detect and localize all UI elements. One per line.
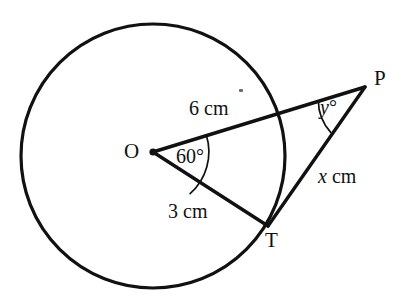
measure-label-3cm: 3 cm <box>168 201 207 221</box>
point-label-O: O <box>124 141 139 162</box>
unit-cm: cm <box>332 165 356 187</box>
angle-label-60-degrees: 60° <box>176 146 204 166</box>
measure-label-6cm: 6 cm <box>189 98 228 118</box>
vertex-dot-O <box>149 148 156 155</box>
geometry-figure-svg <box>0 0 410 302</box>
point-label-T: T <box>265 230 278 251</box>
angle-label-y-degrees: y° <box>320 97 337 117</box>
scan-artifact-speck <box>239 89 243 92</box>
variable-x: x <box>318 165 327 187</box>
segment-T-to-P <box>268 87 365 226</box>
geometry-diagram-canvas: O P T 6 cm 3 cm x cm 60° y° <box>0 0 410 302</box>
main-circle <box>21 24 285 288</box>
measure-label-x-cm: x cm <box>318 166 356 186</box>
point-label-P: P <box>374 68 386 89</box>
degree-symbol: ° <box>329 96 337 118</box>
variable-y: y <box>320 96 329 118</box>
